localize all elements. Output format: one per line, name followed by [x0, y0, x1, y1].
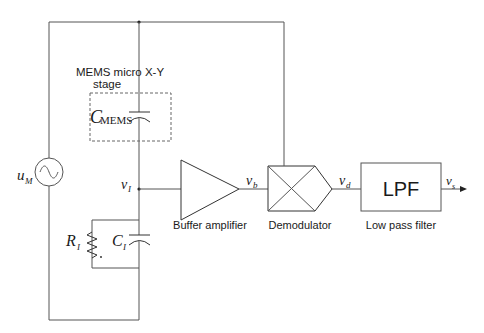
cmems-sub: MEMS [100, 114, 132, 126]
variable-resistor-icon [87, 232, 102, 258]
low-pass-filter-label: Low pass filter [366, 219, 437, 231]
vd-sub: d [346, 180, 351, 190]
ac-source-icon [35, 158, 63, 186]
source-sub: M [24, 176, 33, 186]
vs-sub: s [452, 182, 455, 191]
vb-label: v [246, 173, 253, 188]
vi-sub: I [127, 184, 132, 194]
buffer-amplifier-icon [181, 160, 239, 220]
vd-label: v [339, 173, 346, 188]
demodulator-icon [268, 166, 332, 211]
demodulator-label: Demodulator [269, 219, 332, 231]
ri-sub: I [76, 242, 81, 252]
source-label: u [17, 167, 25, 183]
ri-label: R [65, 232, 76, 249]
ci-label: C [112, 232, 123, 249]
vb-sub: b [253, 180, 258, 190]
vi-label: v [121, 177, 128, 192]
mems-stage-label-1: MEMS micro X-Y [76, 66, 165, 78]
mems-stage-label-2: stage [93, 78, 121, 90]
ci-sub: I [122, 242, 127, 252]
buffer-amplifier-label: Buffer amplifier [173, 219, 247, 231]
lpf-label: LPF [383, 178, 420, 200]
circuit-diagram: MEMS micro X-Y stage C MEMS u M v I v b … [0, 0, 484, 333]
output-arrow-icon [460, 186, 467, 192]
